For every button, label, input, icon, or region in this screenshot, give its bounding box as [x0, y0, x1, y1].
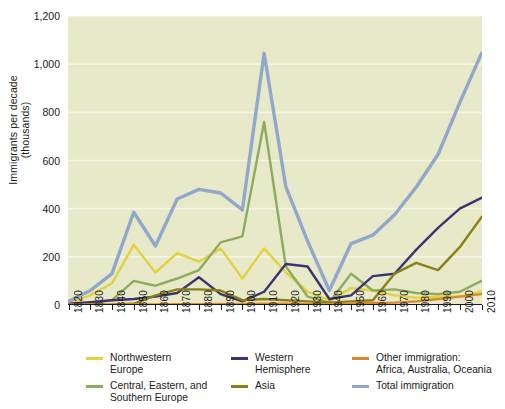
x-tick-1850: 1850	[138, 290, 149, 313]
x-tick-1980: 1980	[420, 290, 431, 313]
y-tick-800: 800	[42, 106, 60, 118]
chart-canvas	[68, 16, 482, 305]
legend-other-immigration-label: Other immigration: Africa, Australia, Oc…	[376, 352, 492, 375]
x-tick-1920: 1920	[290, 290, 301, 313]
legend-other-immigration-swatch-icon	[352, 357, 369, 361]
x-tick-mark-1980	[416, 305, 417, 310]
x-tick-mark-1830	[90, 305, 91, 310]
chart-legend: Northwestern EuropeCentral, Eastern, and…	[86, 352, 498, 404]
x-tick-1880: 1880	[203, 290, 214, 313]
x-tick-mark-1920	[286, 305, 287, 310]
legend-northwestern-europe-label: Northwestern Europe	[110, 352, 171, 375]
legend-total-immigration-label: Total immigration	[376, 380, 454, 392]
x-tick-2010: 2010	[486, 290, 497, 313]
x-tick-mark-1890	[221, 305, 222, 310]
x-tick-1960: 1960	[377, 290, 388, 313]
x-tick-1890: 1890	[225, 290, 236, 313]
legend-total-immigration-swatch-icon	[352, 385, 369, 389]
legend-central-eastern-southern-europe[interactable]: Central, Eastern, and Southern Europe	[86, 380, 207, 403]
legend-western-hemisphere-swatch-icon	[231, 357, 248, 361]
y-tick-1200: 1,200	[34, 10, 60, 22]
x-tick-mark-1960	[373, 305, 374, 310]
x-tick-mark-1990	[438, 305, 439, 310]
x-tick-1860: 1860	[159, 290, 170, 313]
x-tick-mark-1940	[329, 305, 330, 310]
y-axis-tick-labels: 02004006008001,0001,200	[0, 0, 68, 330]
x-tick-mark-1870	[177, 305, 178, 310]
legend-western-hemisphere-label: Western Hemisphere	[255, 352, 311, 375]
legend-northwestern-europe-swatch-icon	[86, 357, 103, 361]
legend-asia[interactable]: Asia	[231, 380, 275, 392]
x-tick-1840: 1840	[116, 290, 127, 313]
legend-other-immigration[interactable]: Other immigration: Africa, Australia, Oc…	[352, 352, 492, 375]
x-tick-mark-1900	[242, 305, 243, 310]
legend-asia-label: Asia	[255, 380, 275, 392]
x-tick-1940: 1940	[333, 290, 344, 313]
x-tick-mark-1880	[199, 305, 200, 310]
y-tick-1000: 1,000	[34, 58, 60, 70]
legend-western-hemisphere[interactable]: Western Hemisphere	[231, 352, 311, 375]
legend-asia-swatch-icon	[231, 385, 248, 389]
x-tick-1990: 1990	[442, 290, 453, 313]
immigration-line-chart: Immigrants per decade (thousands) 020040…	[0, 0, 505, 409]
x-tick-mark-1930	[308, 305, 309, 310]
x-tick-1870: 1870	[181, 290, 192, 313]
x-tick-1820: 1820	[73, 290, 84, 313]
y-tick-600: 600	[42, 155, 60, 167]
legend-central-eastern-southern-europe-label: Central, Eastern, and Southern Europe	[110, 380, 207, 403]
x-tick-mark-1850	[134, 305, 135, 310]
x-tick-1970: 1970	[399, 290, 410, 313]
plot-area	[68, 16, 482, 305]
x-tick-mark-1860	[155, 305, 156, 310]
x-tick-1930: 1930	[312, 290, 323, 313]
legend-total-immigration[interactable]: Total immigration	[352, 380, 454, 392]
x-tick-2000: 2000	[464, 290, 475, 313]
x-tick-mark-1840	[112, 305, 113, 310]
legend-northwestern-europe[interactable]: Northwestern Europe	[86, 352, 171, 375]
x-tick-1950: 1950	[355, 290, 366, 313]
x-tick-1830: 1830	[94, 290, 105, 313]
x-tick-mark-2010	[482, 305, 483, 310]
x-tick-mark-1950	[351, 305, 352, 310]
x-tick-mark-1820	[69, 305, 70, 310]
x-tick-1900: 1900	[246, 290, 257, 313]
y-tick-400: 400	[42, 203, 60, 215]
x-tick-1910: 1910	[268, 290, 279, 313]
y-tick-0: 0	[54, 299, 60, 311]
x-tick-mark-1970	[395, 305, 396, 310]
x-tick-mark-1910	[264, 305, 265, 310]
y-tick-200: 200	[42, 251, 60, 263]
legend-central-eastern-southern-europe-swatch-icon	[86, 385, 103, 389]
x-tick-mark-2000	[460, 305, 461, 310]
